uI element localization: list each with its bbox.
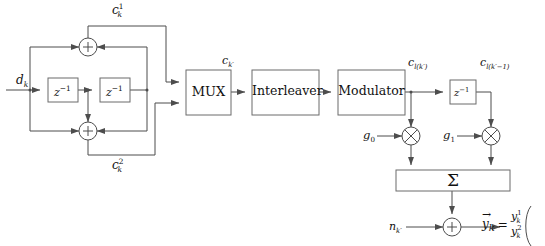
vector-left-paren <box>526 206 531 246</box>
signal-label-input: dk <box>16 74 28 89</box>
vector-components: y1k y2k <box>511 210 521 240</box>
diagram-wires <box>0 0 545 246</box>
vector-symbol: yk <box>482 217 495 233</box>
signal-label-parity-2: c2k <box>112 158 122 174</box>
signal-label-mux-output: ck′ <box>222 55 234 69</box>
vector-component-2: y2k <box>511 225 521 240</box>
signal-label-gain-1: g1 <box>443 130 455 143</box>
output-vector-expression: yk = y1k y2k <box>482 210 521 240</box>
delay-label-encoder-2: z−1 <box>106 84 123 99</box>
signal-label-delayed-symbol: cl(k′−1) <box>480 57 509 71</box>
equals-sign: = <box>498 218 508 232</box>
block-label-mux: MUX <box>186 85 231 98</box>
delay-label-encoder-1: z−1 <box>54 84 71 99</box>
block-diagram-canvas: MUX Interleaver Modulator Σ z−1 z−1 z−1 … <box>0 0 545 246</box>
block-label-modulator: Modulator <box>338 85 405 98</box>
signal-label-gain-0: g0 <box>363 130 375 143</box>
signal-label-modulator-output: cl(k′) <box>408 57 427 71</box>
block-label-interleaver: Interleaver <box>252 85 319 98</box>
signal-label-parity-1: c1k <box>112 3 122 19</box>
delay-label-channel: z−1 <box>454 86 469 98</box>
signal-label-noise: nk′ <box>389 221 402 235</box>
vector-component-1: y1k <box>511 210 521 225</box>
block-label-summation: Σ <box>396 172 510 189</box>
